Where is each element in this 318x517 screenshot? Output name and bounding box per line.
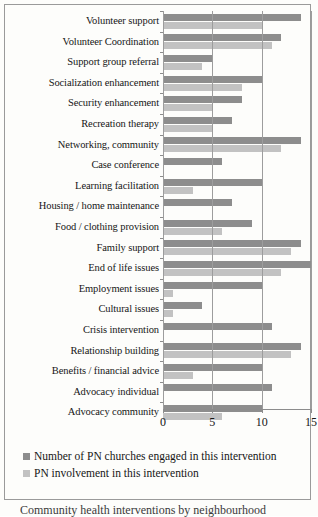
bar-group <box>163 382 311 403</box>
bar-pn-involvement <box>163 42 272 49</box>
bar-row: Family support <box>5 238 311 259</box>
legend-swatch-icon <box>23 453 30 460</box>
bar-cell <box>163 176 311 197</box>
bar-cell <box>163 114 311 135</box>
bar-row: Relationship building <box>5 341 311 362</box>
bar-row: Volunteer support <box>5 11 311 32</box>
bar-pn-involvement <box>163 310 173 317</box>
bar-churches-engaged <box>163 117 232 124</box>
x-axis-line <box>163 409 311 410</box>
bar-row: Volunteer Coordination <box>5 32 311 53</box>
bar-churches-engaged <box>163 220 252 227</box>
category-label: Relationship building <box>5 341 163 362</box>
category-label: Socialization enhancement <box>5 73 163 94</box>
bar-cell <box>163 11 311 32</box>
category-label: Learning facilitation <box>5 176 163 197</box>
bar-row: Cultural issues <box>5 299 311 320</box>
bar-pn-involvement <box>163 290 173 297</box>
bar-pn-involvement <box>163 187 193 194</box>
bar-churches-engaged <box>163 179 262 186</box>
bar-row: Housing / home maintenance <box>5 196 311 217</box>
chart-frame: Volunteer supportVolunteer CoordinationS… <box>4 4 311 500</box>
category-label: Employment issues <box>5 279 163 300</box>
bar-churches-engaged <box>163 158 222 165</box>
bar-churches-engaged <box>163 323 272 330</box>
bar-cell <box>163 93 311 114</box>
bar-cell <box>163 52 311 73</box>
bar-pn-involvement <box>163 145 281 152</box>
bar-churches-engaged <box>163 76 262 83</box>
legend-item: PN involvement in this intervention <box>23 465 303 481</box>
category-label: Security enhancement <box>5 93 163 114</box>
bar-group <box>163 361 311 382</box>
bar-group <box>163 73 311 94</box>
bar-row: End of life issues <box>5 258 311 279</box>
bar-churches-engaged <box>163 302 202 309</box>
category-label: Case conference <box>5 155 163 176</box>
x-tick-label: 0 <box>160 414 166 430</box>
x-tick-label: 5 <box>209 414 215 430</box>
bar-group <box>163 11 311 32</box>
bar-row: Benefits / financial advice <box>5 361 311 382</box>
bar-cell <box>163 73 311 94</box>
bar-group <box>163 320 311 341</box>
category-label: Volunteer support <box>5 11 163 32</box>
category-label: Support group referral <box>5 52 163 73</box>
legend-swatch-icon <box>23 470 30 477</box>
bar-group <box>163 258 311 279</box>
bar-group <box>163 279 311 300</box>
bar-row: Socialization enhancement <box>5 73 311 94</box>
bar-group <box>163 52 311 73</box>
chart-legend: Number of PN churches engaged in this in… <box>23 448 303 482</box>
bar-cell <box>163 320 311 341</box>
bar-pn-involvement <box>163 228 222 235</box>
bar-cell <box>163 238 311 259</box>
bar-churches-engaged <box>163 282 262 289</box>
category-label: Volunteer Coordination <box>5 32 163 53</box>
bar-group <box>163 196 311 217</box>
bar-row: Advocacy individual <box>5 382 311 403</box>
bar-churches-engaged <box>163 96 242 103</box>
bar-group <box>163 217 311 238</box>
y-axis-line <box>163 11 164 409</box>
bar-churches-engaged <box>163 137 301 144</box>
bar-group <box>163 93 311 114</box>
category-label: End of life issues <box>5 258 163 279</box>
category-label: Housing / home maintenance <box>5 196 163 217</box>
x-tick-mark <box>163 409 164 413</box>
bar-row: Learning facilitation <box>5 176 311 197</box>
bar-churches-engaged <box>163 55 212 62</box>
plot-area: Volunteer supportVolunteer CoordinationS… <box>5 11 311 441</box>
category-label: Advocacy community <box>5 402 163 423</box>
bar-row: Crisis intervention <box>5 320 311 341</box>
bar-pn-involvement <box>163 269 281 276</box>
bar-churches-engaged <box>163 14 301 21</box>
bar-cell <box>163 382 311 403</box>
legend-label: PN involvement in this intervention <box>34 465 199 481</box>
x-tick-mark <box>262 409 263 413</box>
bar-group <box>163 114 311 135</box>
category-label: Family support <box>5 238 163 259</box>
category-label: Advocacy individual <box>5 382 163 403</box>
category-label: Networking, community <box>5 135 163 156</box>
bar-row: Security enhancement <box>5 93 311 114</box>
bar-churches-engaged <box>163 34 281 41</box>
bar-pn-involvement <box>163 84 242 91</box>
legend-label: Number of PN churches engaged in this in… <box>34 448 276 464</box>
bar-churches-engaged <box>163 384 272 391</box>
bar-row: Support group referral <box>5 52 311 73</box>
bar-pn-involvement <box>163 372 193 379</box>
bar-churches-engaged <box>163 240 301 247</box>
x-tick-label: 15 <box>305 414 317 430</box>
bar-churches-engaged <box>163 199 232 206</box>
bar-pn-involvement <box>163 248 291 255</box>
bar-group <box>163 155 311 176</box>
bar-cell <box>163 155 311 176</box>
bar-group <box>163 299 311 320</box>
bar-row: Employment issues <box>5 279 311 300</box>
x-axis-labels: 051015 <box>163 414 311 432</box>
x-tick-mark <box>311 409 312 413</box>
bar-pn-involvement <box>163 351 291 358</box>
bar-cell <box>163 299 311 320</box>
